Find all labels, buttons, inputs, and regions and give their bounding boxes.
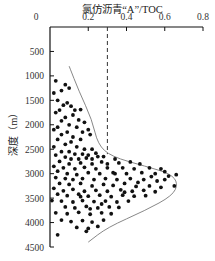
data-point — [83, 147, 87, 151]
annotations — [69, 27, 176, 242]
data-point — [67, 86, 71, 90]
data-point — [130, 189, 134, 193]
data-point — [123, 182, 127, 186]
data-point — [73, 152, 77, 156]
scatter-chart: 00.20.40.60.8500100015002000250030003500… — [0, 0, 215, 261]
data-point — [54, 211, 58, 215]
data-point — [81, 177, 85, 181]
data-point — [86, 128, 90, 132]
data-point — [98, 193, 102, 197]
data-point — [71, 135, 75, 139]
data-point — [134, 184, 138, 188]
data-point — [52, 91, 56, 95]
data-point — [142, 178, 146, 182]
data-point — [67, 150, 71, 154]
data-point — [75, 226, 79, 230]
data-point — [148, 166, 152, 170]
data-point — [92, 178, 96, 182]
data-point — [63, 142, 67, 146]
data-point — [81, 152, 85, 156]
y-tick-label: 2500 — [25, 145, 44, 155]
data-point — [123, 190, 127, 194]
data-point — [148, 184, 152, 188]
data-point — [113, 172, 117, 176]
data-point — [88, 212, 92, 216]
data-point — [75, 125, 79, 129]
data-point — [94, 167, 98, 171]
data-point — [84, 229, 88, 233]
data-point — [54, 153, 58, 157]
data-point — [174, 173, 178, 177]
data-point — [71, 200, 75, 204]
y-tick-label: 4500 — [25, 243, 44, 253]
envelope-curve — [69, 66, 176, 242]
data-point — [58, 160, 62, 164]
data-point — [77, 118, 81, 122]
data-point — [90, 184, 94, 188]
data-point — [81, 199, 85, 203]
y-tick-label: 500 — [30, 47, 45, 57]
data-point — [65, 172, 69, 176]
data-point — [102, 155, 106, 159]
data-point — [163, 178, 167, 182]
data-point — [56, 169, 60, 173]
y-tick-label: 2000 — [25, 120, 44, 130]
data-point — [77, 210, 81, 214]
data-point — [56, 192, 60, 196]
data-point — [94, 151, 98, 155]
data-point — [138, 162, 142, 166]
data-point — [60, 218, 64, 222]
data-point — [159, 167, 163, 171]
x-tick-label: 0 — [34, 12, 39, 22]
data-point — [159, 185, 163, 189]
x-tick-label: 0.6 — [159, 12, 171, 22]
data-point — [96, 225, 100, 229]
data-point — [90, 147, 94, 151]
data-point — [100, 202, 104, 206]
data-point — [52, 128, 56, 132]
data-point — [60, 199, 64, 203]
data-point — [63, 205, 67, 209]
data-point — [52, 145, 56, 149]
data-point — [98, 172, 102, 176]
data-point — [128, 160, 132, 164]
data-point — [61, 103, 65, 107]
data-point — [142, 188, 146, 192]
data-point — [65, 101, 69, 105]
data-point — [102, 218, 106, 222]
data-point — [94, 188, 98, 192]
data-point — [163, 170, 167, 174]
data-point — [58, 108, 62, 112]
data-point — [153, 172, 157, 176]
data-point — [63, 155, 67, 159]
data-point — [54, 79, 58, 83]
data-point — [81, 219, 85, 223]
data-point — [104, 199, 108, 203]
data-point — [117, 206, 121, 210]
data-point — [69, 104, 73, 108]
data-point — [136, 181, 140, 185]
y-tick-label: 1000 — [25, 71, 44, 81]
data-point — [96, 155, 100, 159]
data-point — [92, 200, 96, 204]
data-point — [83, 189, 87, 193]
y-tick-label: 3000 — [25, 169, 44, 179]
data-point — [104, 177, 108, 181]
data-point — [50, 199, 54, 203]
data-point — [84, 156, 88, 160]
data-point — [73, 108, 77, 112]
x-tick-label: 0.2 — [82, 12, 94, 22]
data-point — [60, 150, 64, 154]
data-point — [52, 164, 56, 168]
data-point — [140, 171, 144, 175]
data-point — [52, 186, 56, 190]
data-point — [86, 194, 90, 198]
data-point — [153, 190, 157, 194]
data-point — [54, 176, 58, 180]
data-point — [67, 162, 71, 166]
data-point — [149, 175, 153, 179]
data-point — [83, 165, 87, 169]
data-point — [69, 140, 73, 144]
data-point — [73, 206, 77, 210]
axes: 00.20.40.60.8500100015002000250030003500… — [25, 12, 209, 253]
